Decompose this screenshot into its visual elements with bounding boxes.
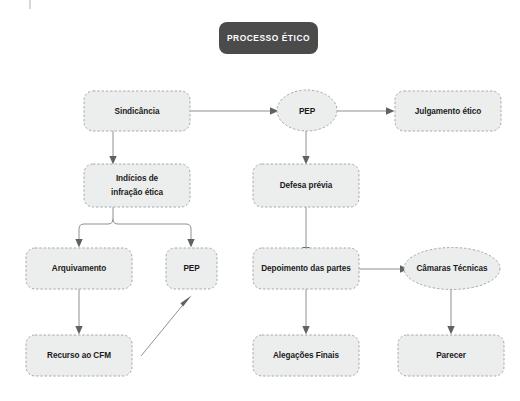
indicios-shape: [84, 164, 190, 207]
edge-sindicancia-to-pep-top: [190, 107, 279, 114]
node-recurso-ao-cfm[interactable]: Recurso ao CFM: [26, 335, 132, 376]
node-julgamento-etico[interactable]: Julgamento ético: [395, 91, 501, 131]
edge-depoimento-to-alegacoes: [302, 289, 309, 335]
node-camaras-tecnicas[interactable]: Câmaras Técnicas: [404, 248, 500, 290]
node-depoimento-das-partes[interactable]: Depoimento das partes: [253, 248, 359, 289]
pep-top-label: PEP: [299, 107, 316, 116]
node-arquivamento[interactable]: Arquivamento: [26, 248, 132, 289]
flowchart-svg: PROCESSO ÉTICO Sindicância PEP Julgament…: [0, 0, 520, 401]
pep-branch-label: PEP: [183, 264, 200, 273]
julgamento-etico-label: Julgamento ético: [415, 107, 482, 116]
arquivamento-label: Arquivamento: [52, 264, 106, 273]
node-sindicancia[interactable]: Sindicância: [84, 91, 190, 131]
edge-recurso-to-pep-branch: [141, 296, 192, 357]
alegacoes-finais-label: Alegações Finais: [273, 351, 340, 360]
parecer-label: Parecer: [436, 351, 467, 360]
indicios-label-line1: Indícios de: [116, 174, 159, 183]
node-defesa-previa[interactable]: Defesa prévia: [253, 164, 359, 207]
camaras-tecnicas-label: Câmaras Técnicas: [416, 264, 488, 273]
scan-artifact: [29, 0, 31, 9]
recurso-ao-cfm-label: Recurso ao CFM: [47, 351, 111, 360]
edge-indicios-fork: [75, 207, 194, 248]
node-pep-top[interactable]: PEP: [277, 90, 337, 131]
edge-pep-top-to-defesa-previa: [302, 127, 309, 165]
edge-layer: [75, 107, 454, 356]
edge-sindicancia-to-indicios: [109, 131, 116, 165]
edge-depoimento-to-camaras: [359, 265, 409, 272]
node-parecer[interactable]: Parecer: [398, 335, 504, 376]
defesa-previa-label: Defesa prévia: [280, 181, 333, 190]
node-alegacoes-finais[interactable]: Alegações Finais: [253, 335, 359, 376]
edge-pep-top-to-julgamento: [337, 107, 395, 114]
node-processo-etico[interactable]: PROCESSO ÉTICO: [219, 22, 318, 54]
edge-camaras-to-parecer: [447, 289, 454, 335]
title-badge-label: PROCESSO ÉTICO: [227, 32, 310, 43]
node-indicios-infracao-etica[interactable]: Indícios de infração ética: [84, 164, 190, 207]
node-pep-branch[interactable]: PEP: [166, 248, 217, 289]
depoimento-label: Depoimento das partes: [261, 264, 351, 273]
edge-arquivamento-to-recurso: [75, 289, 82, 335]
indicios-label-line2: infração ética: [111, 188, 164, 197]
flowchart-canvas: PROCESSO ÉTICO Sindicância PEP Julgament…: [0, 0, 520, 401]
sindicancia-label: Sindicância: [115, 107, 160, 116]
